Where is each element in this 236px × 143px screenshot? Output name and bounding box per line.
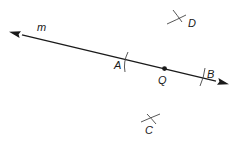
diagram-svg: m A Q B C D xyxy=(0,0,236,143)
label-c: C xyxy=(145,124,153,136)
geometry-diagram: m A Q B C D xyxy=(0,0,236,143)
arc-a xyxy=(124,52,128,72)
point-q xyxy=(162,66,167,71)
cross-c xyxy=(141,114,160,124)
label-a: A xyxy=(113,59,121,71)
line-m xyxy=(9,31,229,85)
label-m: m xyxy=(37,21,46,33)
label-d: D xyxy=(188,17,196,29)
label-q: Q xyxy=(158,74,167,86)
arrowhead-right-icon xyxy=(217,78,229,85)
label-b: B xyxy=(207,68,214,80)
cross-d xyxy=(167,10,186,24)
arrowhead-left-icon xyxy=(9,31,21,38)
